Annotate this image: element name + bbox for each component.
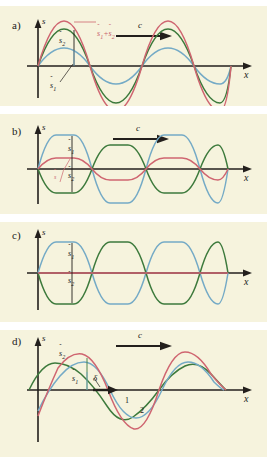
panel-c-amp2-label: s2: [68, 277, 74, 287]
panel-c-svg: [0, 222, 267, 322]
panel-c-x-axis-label: x: [244, 277, 248, 287]
panel-c-letter: c): [12, 230, 21, 241]
c-arrow-head: [157, 135, 169, 143]
panel-d-y-axis-label: s: [42, 334, 46, 343]
y-axis-arrowhead: [35, 19, 42, 28]
panel-a-propagation-label: c: [138, 21, 142, 30]
panel-d-amp2-label: s2: [59, 350, 65, 360]
y-axis-arrowhead: [35, 337, 42, 346]
panel-b-letter: b): [12, 126, 21, 137]
propagation-arrow-group: [116, 32, 172, 40]
panel-c: c) s x s1 s2: [0, 222, 267, 322]
panel-d: d) s x c s2 s1 δ 1 2: [0, 330, 267, 457]
panel-b-sum-label: s: [54, 174, 56, 180]
c-arrow-head: [160, 342, 172, 350]
panel-a-letter: a): [12, 20, 21, 31]
panel-d-phase-label: δ: [93, 374, 97, 383]
c-arrow-head: [160, 32, 172, 40]
panel-d-amp1-label: s1: [72, 375, 78, 385]
amplitude-markers: [60, 22, 96, 82]
panel-d-curve2-label: 2: [140, 407, 144, 415]
panel-a-sum-label: s1+s2: [97, 30, 115, 40]
panel-d-propagation-label: c: [138, 331, 142, 340]
panel-d-curve1-label: 1: [125, 397, 129, 405]
panel-a-y-axis-label: s: [42, 17, 46, 26]
panel-c-amp1-label: s1: [68, 250, 74, 260]
propagation-arrow-group: [116, 342, 172, 350]
panel-b-amp2-label: s2: [68, 172, 74, 182]
panel-c-y-axis-label: s: [42, 228, 46, 237]
delta-arrow-head: [108, 386, 118, 394]
panel-b-y-axis-label: s: [42, 123, 46, 132]
panel-b-svg: [0, 114, 267, 214]
panel-c-plot: c) s x s1 s2: [0, 222, 267, 322]
panel-d-svg: [0, 330, 267, 457]
panel-d-letter: d): [12, 336, 21, 347]
panel-a-x-axis-label: x: [244, 70, 248, 80]
panel-b-plot: b) s x c s1 s2 s: [0, 114, 267, 214]
panel-a-amp2-label: s2: [59, 37, 65, 47]
wave-curve-1: [29, 363, 226, 420]
panel-d-plot: d) s x c s2 s1 δ 1 2: [0, 330, 267, 457]
panel-b-propagation-label: c: [136, 124, 140, 133]
panel-b-x-axis-label: x: [244, 173, 248, 183]
figure-wave-superposition: a) s x c s2 s1 s1+s2: [0, 0, 267, 463]
panel-a-svg: [0, 6, 267, 106]
panel-b-amp1-label: s1: [68, 145, 74, 155]
axes-group: [27, 125, 252, 204]
panel-b: b) s x c s1 s2 s: [0, 114, 267, 214]
wave-sum-curve: [38, 21, 231, 106]
panel-d-x-axis-label: x: [244, 394, 248, 404]
y-axis-arrowhead: [35, 125, 42, 134]
y-axis-arrowhead: [35, 229, 42, 238]
panel-a: a) s x c s2 s1 s1+s2: [0, 6, 267, 106]
axes-group: [27, 229, 252, 310]
panel-a-plot: a) s x c s2 s1 s1+s2: [0, 6, 267, 106]
panel-a-amp1-label: s1: [50, 82, 56, 92]
